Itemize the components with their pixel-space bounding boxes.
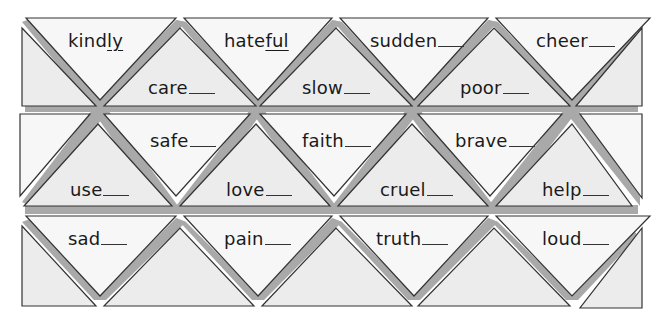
word-stem: hate <box>224 30 265 51</box>
word-pain: pain <box>224 228 291 249</box>
word-stem: faith <box>302 130 344 151</box>
suffix-answer[interactable]: ly <box>107 30 123 51</box>
suffix-blank[interactable] <box>503 92 529 94</box>
word-stem: poor <box>460 77 502 98</box>
word-faith: faith <box>302 130 371 151</box>
word-stem: help <box>542 179 582 200</box>
word-brave: brave <box>455 130 535 151</box>
suffix-blank[interactable] <box>345 145 371 147</box>
word-stem: cheer <box>536 30 588 51</box>
suffix-blank[interactable] <box>589 45 615 47</box>
word-stem: slow <box>302 77 343 98</box>
word-cruel: cruel <box>380 179 453 200</box>
word-stem: sad <box>68 228 100 249</box>
suffix-blank[interactable] <box>265 243 291 245</box>
word-stem: sudden <box>370 30 437 51</box>
word-truth: truth <box>376 228 448 249</box>
suffix-blank[interactable] <box>583 243 609 245</box>
word-stem: loud <box>542 228 582 249</box>
word-poor: poor <box>460 77 529 98</box>
word-love: love <box>226 179 292 200</box>
word-kindly: kindly <box>68 30 123 51</box>
word-care: care <box>148 77 215 98</box>
word-sudden: sudden <box>370 30 464 51</box>
word-stem: kind <box>68 30 107 51</box>
word-stem: pain <box>224 228 264 249</box>
suffix-blank[interactable] <box>427 194 453 196</box>
word-cheer: cheer <box>536 30 615 51</box>
word-loud: loud <box>542 228 609 249</box>
suffix-blank[interactable] <box>101 243 127 245</box>
word-stem: truth <box>376 228 421 249</box>
suffix-blank[interactable] <box>266 194 292 196</box>
word-stem: use <box>70 179 102 200</box>
word-hateful: hateful <box>224 30 289 51</box>
suffix-blank[interactable] <box>189 92 215 94</box>
suffix-blank[interactable] <box>583 194 609 196</box>
suffix-blank[interactable] <box>344 92 370 94</box>
suffix-blank[interactable] <box>422 243 448 245</box>
suffix-answer[interactable]: ful <box>265 30 288 51</box>
word-safe: safe <box>150 130 216 151</box>
suffix-blank[interactable] <box>509 145 535 147</box>
suffix-blank[interactable] <box>190 145 216 147</box>
suffix-blank[interactable] <box>438 45 464 47</box>
word-use: use <box>70 179 129 200</box>
word-stem: love <box>226 179 265 200</box>
word-slow: slow <box>302 77 370 98</box>
word-stem: cruel <box>380 179 426 200</box>
triangle-pieces <box>20 18 650 308</box>
word-stem: brave <box>455 130 508 151</box>
word-help: help <box>542 179 609 200</box>
word-stem: care <box>148 77 188 98</box>
word-sad: sad <box>68 228 127 249</box>
word-stem: safe <box>150 130 189 151</box>
suffix-blank[interactable] <box>103 194 129 196</box>
